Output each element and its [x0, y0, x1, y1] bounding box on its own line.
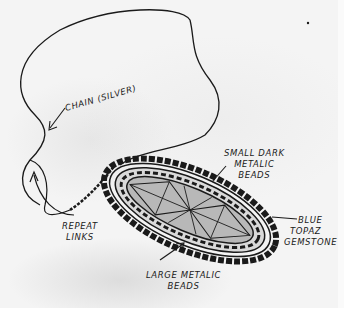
chain-arrow — [50, 108, 65, 128]
label-small-beads-line3: Beads — [224, 170, 285, 181]
chain-left-drop — [30, 160, 70, 215]
label-gemstone-line1: Blue — [284, 215, 337, 226]
label-small-beads-line2: Metalic — [224, 159, 285, 170]
paper-edge-right — [338, 0, 344, 308]
label-repeat-links: Repeat Links — [62, 221, 98, 243]
label-large-beads: Large Metalic Beads — [146, 270, 221, 292]
paper-edge-bottom — [0, 308, 344, 329]
label-repeat-links-line2: Links — [62, 232, 98, 243]
repeat-links-arrow — [34, 175, 74, 215]
label-large-beads-line1: Large Metalic — [146, 270, 221, 281]
sketch-canvas: Chain (Silver) Repeat Links Small Dark M… — [0, 0, 344, 329]
stray-dot — [307, 22, 309, 24]
chain-arrowhead — [49, 121, 57, 130]
label-gemstone-line2: Topaz — [284, 226, 337, 237]
label-large-beads-line2: Beads — [146, 281, 221, 292]
label-repeat-links-line1: Repeat — [62, 221, 98, 232]
label-gemstone-line3: Gemstone — [284, 237, 337, 248]
label-small-beads-line1: Small Dark — [224, 148, 285, 159]
label-gemstone: Blue Topaz Gemstone — [284, 215, 337, 248]
label-small-beads: Small Dark Metalic Beads — [224, 148, 285, 181]
